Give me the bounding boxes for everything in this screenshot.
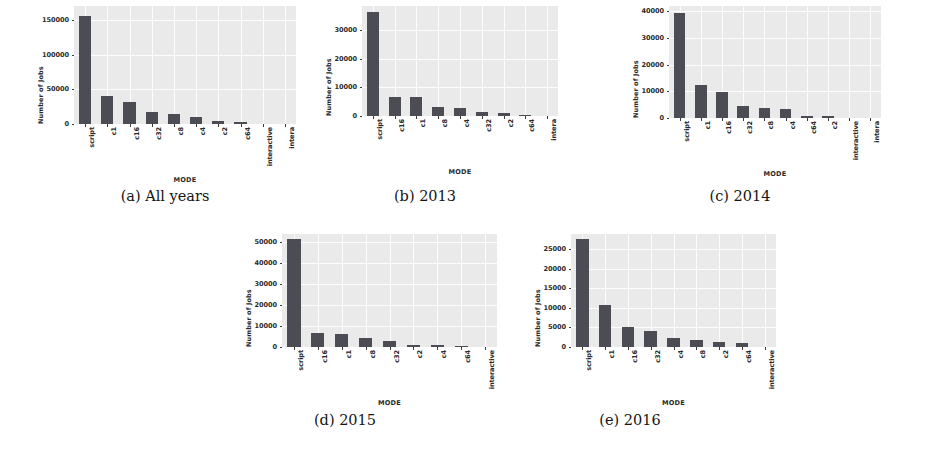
gridline-vertical bbox=[764, 6, 765, 118]
x-tick-label: c4 bbox=[789, 121, 797, 173]
gridline-vertical bbox=[285, 6, 286, 124]
gridline-vertical bbox=[263, 6, 264, 124]
y-tick-mark bbox=[569, 327, 572, 328]
bar bbox=[690, 340, 703, 347]
gridline-vertical bbox=[366, 234, 367, 347]
x-tick-mark bbox=[582, 347, 583, 350]
y-axis-title: Number of Jobs bbox=[245, 289, 253, 347]
x-tick-mark bbox=[460, 116, 461, 119]
x-tick-label: script bbox=[585, 350, 593, 402]
bar bbox=[737, 106, 749, 118]
x-tick-mark bbox=[680, 118, 681, 121]
y-tick-mark bbox=[72, 55, 75, 56]
x-tick-label: c16 bbox=[133, 127, 141, 179]
y-tick-mark bbox=[72, 124, 75, 125]
gridline-vertical bbox=[174, 6, 175, 124]
y-tick-mark bbox=[360, 116, 363, 117]
bar bbox=[79, 16, 91, 124]
x-tick-mark bbox=[438, 116, 439, 119]
x-tick-label: c64 bbox=[464, 350, 472, 402]
x-tick-label: c1 bbox=[345, 350, 353, 402]
gridline-vertical bbox=[849, 6, 850, 118]
x-tick-mark bbox=[743, 118, 744, 121]
y-tick-label: 150000 bbox=[30, 16, 69, 24]
bar bbox=[716, 92, 728, 118]
gridline-vertical bbox=[437, 234, 438, 347]
x-tick-mark bbox=[605, 347, 606, 350]
gridline-vertical bbox=[674, 234, 675, 347]
gridline-vertical bbox=[152, 6, 153, 124]
x-tick-mark bbox=[416, 116, 417, 119]
x-tick-label: c16 bbox=[398, 119, 406, 171]
x-tick-label: c64 bbox=[528, 119, 536, 171]
y-tick-mark bbox=[667, 65, 670, 66]
y-tick-label: 10000 bbox=[625, 87, 664, 95]
x-tick-label: c8 bbox=[177, 127, 185, 179]
x-tick-label: c1 bbox=[419, 119, 427, 171]
x-tick-mark bbox=[263, 124, 264, 127]
x-tick-label: c2 bbox=[831, 121, 839, 173]
x-tick-label: script bbox=[683, 121, 691, 173]
y-tick-label: 25000 bbox=[527, 245, 566, 253]
y-tick-label: 10000 bbox=[238, 322, 277, 330]
plot-area bbox=[571, 234, 776, 347]
x-tick-label: c1 bbox=[110, 127, 118, 179]
y-tick-mark bbox=[667, 11, 670, 12]
x-tick-mark bbox=[849, 118, 850, 121]
gridline-vertical bbox=[342, 234, 343, 347]
x-tick-mark bbox=[437, 347, 438, 350]
x-tick-label: intera bbox=[288, 127, 296, 179]
y-tick-label: 40000 bbox=[625, 7, 664, 15]
x-tick-label: script bbox=[88, 127, 96, 179]
x-tick-label: c2 bbox=[221, 127, 229, 179]
y-tick-mark bbox=[569, 288, 572, 289]
plot-area bbox=[282, 234, 497, 347]
x-tick-mark bbox=[547, 116, 548, 119]
x-tick-mark bbox=[390, 347, 391, 350]
gridline-vertical bbox=[547, 6, 548, 116]
y-tick-label: 50000 bbox=[238, 238, 277, 246]
x-tick-label: c8 bbox=[369, 350, 377, 402]
x-tick-mark bbox=[764, 118, 765, 121]
bar bbox=[599, 305, 612, 347]
x-tick-mark bbox=[294, 347, 295, 350]
y-tick-mark bbox=[280, 347, 283, 348]
x-tick-label: c16 bbox=[725, 121, 733, 173]
x-tick-label: c8 bbox=[441, 119, 449, 171]
y-tick-label: 20000 bbox=[318, 55, 357, 63]
figure-bar-chart-grid: Number of Jobs050000100000150000scriptc1… bbox=[0, 0, 940, 470]
x-tick-label: interactive bbox=[488, 350, 496, 402]
gridline-vertical bbox=[807, 6, 808, 118]
bar bbox=[123, 102, 135, 124]
x-axis-title: MODE bbox=[669, 170, 881, 178]
gridline-vertical bbox=[719, 234, 720, 347]
y-tick-label: 50000 bbox=[30, 85, 69, 93]
bar bbox=[168, 114, 180, 124]
bar bbox=[146, 112, 158, 124]
y-tick-label: 20000 bbox=[527, 265, 566, 273]
x-tick-label: c16 bbox=[631, 350, 639, 402]
y-tick-label: 0 bbox=[527, 343, 566, 351]
y-tick-label: 30000 bbox=[238, 280, 277, 288]
y-tick-mark bbox=[280, 242, 283, 243]
x-axis-title: MODE bbox=[282, 399, 497, 407]
bar bbox=[287, 239, 300, 347]
bar bbox=[335, 334, 348, 347]
x-tick-label: intera bbox=[550, 119, 558, 171]
x-tick-mark bbox=[651, 347, 652, 350]
x-tick-mark bbox=[696, 347, 697, 350]
bar bbox=[432, 107, 444, 116]
bar bbox=[454, 108, 466, 116]
x-tick-mark bbox=[807, 118, 808, 121]
x-tick-mark bbox=[218, 124, 219, 127]
bar bbox=[759, 108, 771, 118]
x-tick-label: c64 bbox=[745, 350, 753, 402]
x-tick-mark bbox=[628, 347, 629, 350]
x-tick-mark bbox=[318, 347, 319, 350]
gridline-vertical bbox=[460, 6, 461, 116]
gridline-vertical bbox=[765, 234, 766, 347]
bar bbox=[644, 331, 657, 347]
gridline-vertical bbox=[651, 234, 652, 347]
x-axis-title: MODE bbox=[74, 176, 296, 184]
x-tick-mark bbox=[828, 118, 829, 121]
